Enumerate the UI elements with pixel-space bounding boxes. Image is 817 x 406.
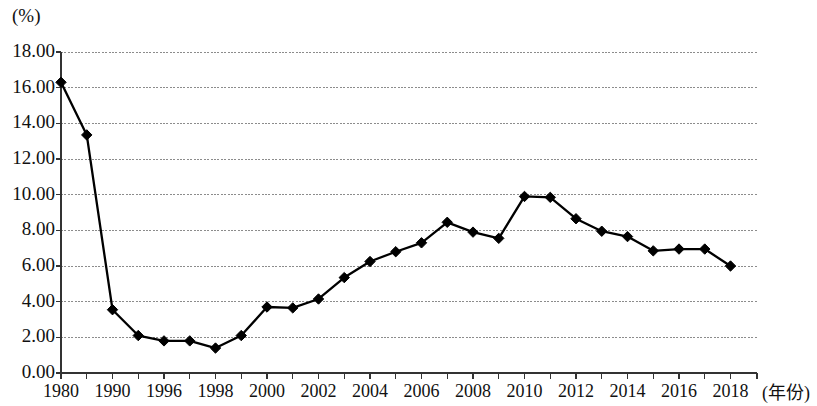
data-point-marker <box>622 231 632 241</box>
plot-area <box>0 0 817 406</box>
data-point-marker <box>82 130 92 140</box>
data-point-marker <box>468 227 478 237</box>
data-point-markers <box>56 77 736 353</box>
x-axis-ticks <box>61 373 757 379</box>
data-point-marker <box>494 233 504 243</box>
data-point-marker <box>519 191 529 201</box>
axis-lines <box>61 52 757 373</box>
data-point-marker <box>674 244 684 254</box>
data-point-marker <box>210 343 220 353</box>
data-point-marker <box>185 336 195 346</box>
data-point-marker <box>288 303 298 313</box>
data-point-marker <box>597 226 607 236</box>
data-point-marker <box>391 247 401 257</box>
gridlines <box>61 52 757 373</box>
data-point-marker <box>365 256 375 266</box>
data-point-marker <box>56 77 66 87</box>
data-point-marker <box>648 246 658 256</box>
data-line <box>61 82 731 348</box>
line-chart: (%) (年份) 0.002.004.006.008.0010.0012.001… <box>0 0 817 406</box>
